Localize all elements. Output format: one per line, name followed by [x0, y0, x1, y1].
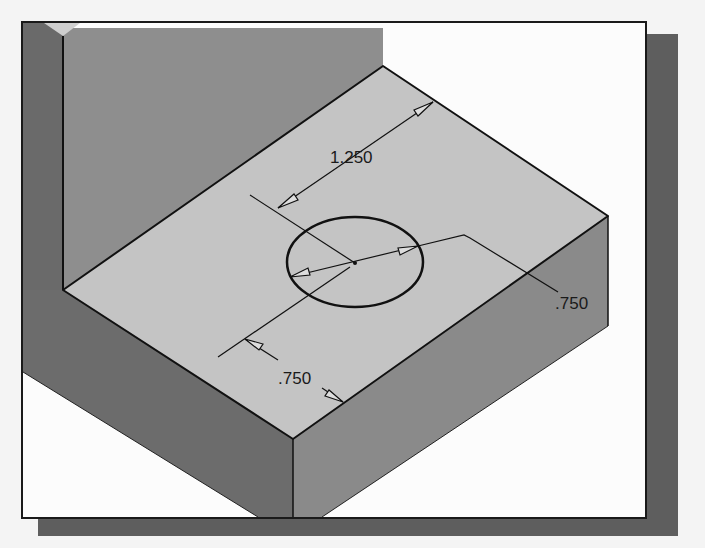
back-wall-edge-face — [23, 23, 63, 290]
dimension-label-1250: 1.250 — [330, 148, 373, 167]
dimension-label-750-offset: .750 — [278, 369, 311, 388]
dimension-label-750-diameter: .750 — [555, 294, 588, 313]
diagram-canvas: 1.250 .750 .750 — [0, 0, 705, 548]
frame-shadow-right — [646, 34, 678, 536]
frame-shadow-bottom — [38, 518, 678, 536]
